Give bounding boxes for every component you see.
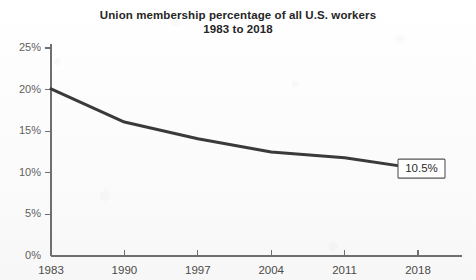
data-label-callout: 10.5% xyxy=(398,159,445,178)
union-membership-series-line xyxy=(51,89,418,169)
x-tick-label-2004: 2004 xyxy=(258,264,284,276)
y-tick-label-25: 25% xyxy=(19,41,41,53)
x-tick-label-2011: 2011 xyxy=(332,264,357,276)
union-membership-line-chart: Union membership percentage of all U.S. … xyxy=(0,0,476,280)
callout-value-label: 10.5% xyxy=(405,162,438,174)
plot-area: 25% 20% 15% 10% 5% 0% 1983 1990 1997 200… xyxy=(0,0,476,280)
y-tick-label-15: 15% xyxy=(19,124,41,136)
x-axis-ticks: 1983 1990 1997 2004 2011 2018 xyxy=(38,250,431,276)
y-axis-ticks: 25% 20% 15% 10% 5% 0% xyxy=(19,41,51,261)
y-tick-label-0: 0% xyxy=(25,249,41,261)
x-tick-label-1983: 1983 xyxy=(38,264,64,276)
y-tick-label-5: 5% xyxy=(25,207,41,219)
x-tick-label-1997: 1997 xyxy=(185,264,211,276)
x-tick-label-2018: 2018 xyxy=(405,264,431,276)
y-tick-label-20: 20% xyxy=(19,83,41,95)
x-tick-label-1990: 1990 xyxy=(112,264,138,276)
y-tick-label-10: 10% xyxy=(19,166,41,178)
